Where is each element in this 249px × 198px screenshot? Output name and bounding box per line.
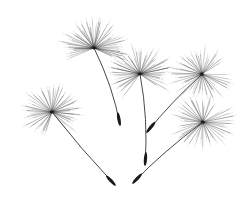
pappus-ray (52, 112, 74, 130)
pappus-center (50, 110, 53, 113)
bristle-tip (171, 133, 175, 134)
bristle-tip (125, 39, 129, 41)
bristle-tip (133, 55, 135, 59)
pappus-ray (203, 122, 223, 142)
bristle-tip (119, 49, 123, 50)
bristle-tip (81, 21, 82, 25)
pappus-ray (202, 101, 203, 122)
bristle-tip (221, 95, 224, 98)
bristle-tip (219, 61, 222, 64)
bristle-tip (181, 142, 184, 145)
bristle-tip (224, 125, 228, 126)
bristle-tip (99, 17, 100, 21)
bristle-tip (198, 93, 199, 97)
bristle-tip (177, 117, 181, 118)
bristle-tip (178, 134, 181, 136)
bristle-tip (117, 44, 121, 45)
bristle-tip (107, 67, 111, 68)
bristle-tip (189, 56, 191, 59)
bristle-tip (122, 96, 124, 99)
bristle-tip (121, 37, 125, 38)
bristle-tip (58, 41, 62, 42)
bristle-tip (183, 99, 186, 102)
bristle-tip (41, 130, 43, 133)
bristle-tip (114, 59, 117, 61)
bristle-tip (26, 92, 29, 95)
bristle-tip (205, 44, 206, 48)
bristle-tip (110, 61, 114, 63)
pappus-ray (117, 61, 140, 74)
pappus-ray (124, 74, 140, 87)
bristle-tip (160, 78, 164, 79)
bristle-tip (181, 82, 185, 84)
bristle-tip (230, 133, 234, 134)
bristle-tip (210, 142, 211, 146)
bristle-tip (228, 79, 232, 80)
bristle-tip (110, 84, 114, 85)
bristle-tip (166, 89, 169, 91)
bristle-tip (100, 19, 101, 23)
bristle-tip (223, 142, 225, 145)
bristle-tip (96, 23, 97, 27)
bristle-tip (75, 22, 77, 25)
dandelion-seeds-illustration (0, 0, 249, 198)
bristle-tip (27, 115, 31, 116)
bristle-tip (194, 143, 195, 147)
bristle-tip (116, 36, 120, 38)
bristle-tip (122, 61, 125, 63)
bristle-tip (209, 56, 210, 60)
bristle-tip (221, 57, 224, 60)
bristle-tip (156, 85, 159, 88)
bristle-tip (180, 62, 183, 64)
bristle-tip (195, 51, 196, 55)
bristle-tip (213, 97, 214, 101)
bristle-tip (71, 33, 74, 36)
seed-lower-right (131, 94, 237, 184)
bristle-tip (227, 88, 230, 90)
bristle-tip (227, 85, 230, 87)
bristle-tip (62, 85, 63, 89)
bristle-tip (146, 52, 147, 56)
bristle-tip (168, 72, 172, 73)
bristle-tip (216, 141, 218, 145)
bristle-tip (135, 48, 136, 52)
achene (145, 121, 156, 134)
bristle-tip (76, 99, 79, 101)
bristle-tip (187, 144, 189, 147)
bristle-tip (195, 97, 196, 101)
seed-upper-right (145, 44, 233, 134)
bristle-tip (192, 89, 193, 93)
pappus-center (138, 72, 141, 75)
bristle-tip (224, 134, 228, 136)
achene (143, 152, 147, 166)
bristle-tip (86, 18, 87, 22)
bristle-tip (66, 58, 69, 60)
bristle-tip (78, 28, 80, 31)
bristle-tip (47, 86, 48, 90)
achene (116, 112, 122, 126)
bristle-tip (68, 39, 72, 41)
bristle-tip (70, 92, 72, 95)
bristle-tip (65, 56, 69, 57)
bristle-tip (229, 113, 233, 114)
bristle-tip (176, 90, 179, 93)
bristle-tip (170, 82, 174, 84)
bristle-tip (112, 56, 116, 58)
pappus-ray (203, 122, 213, 138)
bristle-tip (100, 27, 101, 31)
bristle-tip (214, 59, 217, 62)
bristle-tip (197, 52, 198, 56)
bristle-tip (207, 53, 208, 57)
bristle-tip (45, 131, 46, 135)
bristle-tip (160, 79, 164, 80)
bristle-tip (152, 48, 154, 52)
bristle-tip (108, 20, 110, 23)
bristle-tip (158, 49, 160, 53)
bristle-tip (177, 106, 181, 108)
bristle-tip (67, 98, 70, 101)
bristle-tip (216, 52, 218, 55)
bristle-tip (42, 131, 44, 135)
bristle-tip (184, 54, 187, 57)
bristle-tip (69, 37, 72, 39)
bristle-tip (63, 33, 67, 35)
